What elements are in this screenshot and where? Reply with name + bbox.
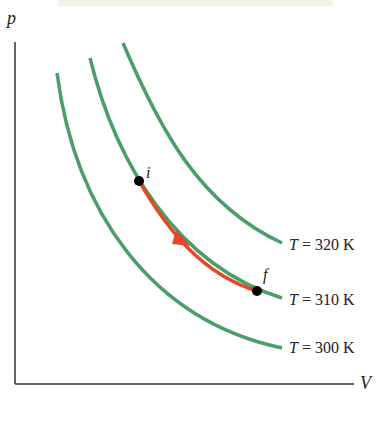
label-310: T = 310 K bbox=[289, 291, 354, 309]
label-320: T = 320 K bbox=[289, 236, 354, 254]
x-axis-label: V bbox=[360, 373, 371, 394]
label-300: T = 300 K bbox=[289, 339, 354, 357]
point-i bbox=[134, 176, 144, 186]
label-f: f bbox=[263, 266, 267, 284]
isotherm-320 bbox=[123, 43, 282, 243]
point-f bbox=[252, 286, 262, 296]
pv-diagram bbox=[0, 0, 392, 424]
process-path bbox=[139, 181, 257, 291]
y-axis-label: p bbox=[7, 8, 16, 29]
isotherm-300 bbox=[57, 73, 282, 348]
label-i: i bbox=[146, 164, 150, 182]
isotherm-310 bbox=[90, 58, 282, 298]
